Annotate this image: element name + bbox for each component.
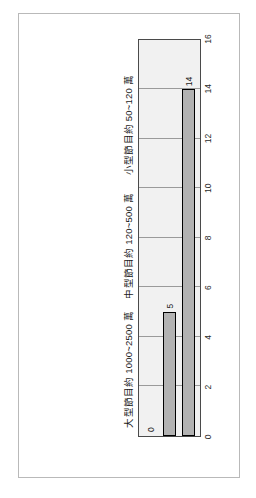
ytick-16: 16: [203, 34, 213, 43]
page-frame: 大型節目約 1000~2500 萬 中型節目約 120~500 萬 小型節目約 …: [18, 13, 240, 478]
bar-chart: 大型節目約 1000~2500 萬 中型節目約 120~500 萬 小型節目約 …: [34, 31, 224, 461]
chart-figure: 大型節目約 1000~2500 萬 中型節目約 120~500 萬 小型節目約 …: [34, 31, 224, 461]
bar-value-large: 0: [146, 427, 156, 432]
ytick-2: 2: [203, 384, 213, 389]
ytick-8: 8: [203, 235, 213, 240]
ytick-14: 14: [203, 84, 213, 93]
ytick-10: 10: [203, 183, 213, 192]
bar-small[interactable]: [182, 89, 195, 436]
ytick-6: 6: [203, 285, 213, 290]
value-axis-ticks: 0 2 4 6 8 10 12 14 16: [203, 39, 219, 437]
ytick-0: 0: [203, 434, 213, 439]
ytick-12: 12: [203, 133, 213, 142]
category-label-medium: 中型節目約 120~500 萬: [124, 193, 134, 319]
category-axis-labels: 大型節目約 1000~2500 萬 中型節目約 120~500 萬 小型節目約 …: [34, 31, 136, 461]
bars-layer: 0 5 14: [139, 40, 200, 436]
category-label-large: 大型節目約 1000~2500 萬: [124, 311, 134, 437]
bar-value-small: 14: [184, 76, 194, 85]
bar-medium[interactable]: [163, 312, 176, 436]
category-label-small: 小型節目約 50~120 萬: [124, 75, 134, 201]
bar-value-medium: 5: [165, 303, 175, 308]
ytick-4: 4: [203, 335, 213, 340]
plot-area: 0 5 14: [138, 39, 201, 437]
